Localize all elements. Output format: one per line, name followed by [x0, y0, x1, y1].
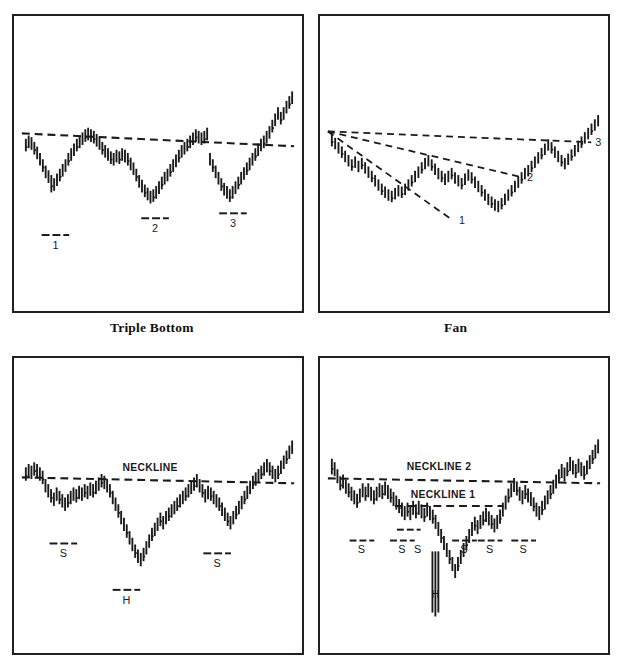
caption-triple-bottom: Triple Bottom: [110, 320, 194, 336]
ohlc-bars: [332, 115, 598, 212]
panel-triple-bottom: 1 2 3: [12, 14, 304, 313]
label-shoulder-4: S: [460, 543, 467, 555]
label-shoulder-3: S: [414, 543, 421, 555]
neckline-label: NECKLINE: [122, 462, 177, 473]
label-right-shoulder: S: [214, 557, 221, 569]
label-fan-1: 1: [459, 214, 465, 226]
caption-fan: Fan: [444, 320, 467, 336]
panel-head-and-shoulders: NECKLINE S H S: [12, 356, 304, 655]
pattern-markers: S S S H S S: [350, 530, 536, 600]
label-bottom-2: 2: [152, 222, 158, 234]
label-shoulder-6: S: [520, 543, 527, 555]
label-head: H: [123, 594, 131, 606]
label-shoulder-1: S: [358, 543, 365, 555]
panel-fan: 1 2 3: [318, 14, 610, 313]
fanline-2: [328, 131, 520, 176]
neckline-1-label: NECKLINE 1: [411, 489, 475, 500]
label-head: H: [431, 588, 439, 600]
bottom-markers: 1 2 3: [42, 213, 247, 251]
neckline-2-label: NECKLINE 2: [407, 461, 471, 472]
label-fan-3: 3: [595, 136, 601, 148]
resistance-trendline: [22, 133, 294, 146]
label-shoulder-5: S: [486, 543, 493, 555]
complex-head-and-shoulders-chart: NECKLINE 2 NECKLINE 1 S S S H: [320, 358, 608, 653]
label-left-shoulder: S: [60, 547, 67, 559]
label-fan-2: 2: [527, 171, 533, 183]
ohlc-bars: [26, 91, 292, 203]
label-shoulder-2: S: [398, 543, 405, 555]
label-bottom-3: 3: [230, 217, 236, 229]
fanline-1: [328, 131, 451, 219]
pattern-markers: S H S: [50, 543, 231, 605]
fan-chart: 1 2 3: [320, 16, 608, 311]
triple-bottom-chart: 1 2 3: [14, 16, 302, 311]
panel-complex-head-and-shoulders: NECKLINE 2 NECKLINE 1 S S S H: [318, 356, 610, 655]
head-and-shoulders-chart: NECKLINE S H S: [14, 358, 302, 653]
label-bottom-1: 1: [52, 239, 58, 251]
figure-grid: 1 2 3 1 2 3 NEC: [0, 0, 625, 667]
